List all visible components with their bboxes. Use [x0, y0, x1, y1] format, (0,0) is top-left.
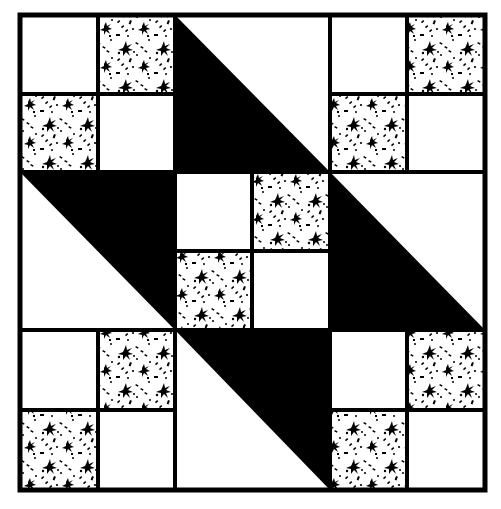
plain-patch [330, 330, 407, 410]
print-patch [407, 330, 485, 410]
quilt-block [0, 0, 501, 509]
print-patch [407, 15, 485, 94]
print-patch [20, 94, 98, 172]
plain-patch [252, 251, 330, 330]
plain-patch [407, 94, 485, 172]
plain-patch [407, 410, 485, 490]
plain-patch [330, 15, 407, 94]
print-patch [175, 251, 252, 330]
print-patch [330, 94, 407, 172]
plain-patch [20, 15, 98, 94]
plain-patch [98, 410, 175, 490]
half-square-triangle-top-middle [175, 15, 330, 172]
half-square-triangle-middle-right [330, 172, 485, 330]
print-patch [98, 330, 175, 410]
print-patch [252, 172, 330, 251]
half-square-triangle-bottom-middle [175, 330, 330, 490]
print-patch [20, 410, 98, 490]
print-patch [98, 15, 175, 94]
print-patch [330, 410, 407, 490]
plain-patch [98, 94, 175, 172]
half-square-triangle-middle-left [20, 172, 175, 330]
plain-patch [175, 172, 252, 251]
plain-patch [20, 330, 98, 410]
